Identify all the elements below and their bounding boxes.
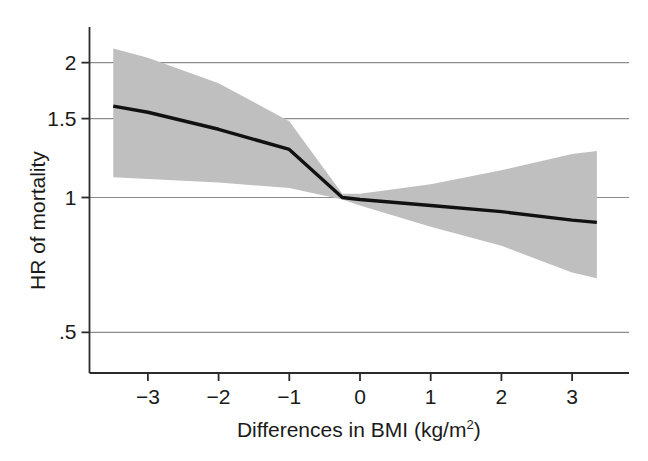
y-axis-title: HR of mortality	[26, 151, 50, 290]
y-tick-label-.5: .5	[59, 321, 77, 342]
x-tick-label-2: 2	[471, 386, 531, 407]
x-tick-label-0: 0	[330, 386, 390, 407]
ci-band-polygon	[113, 49, 597, 279]
x-tick-label-3: 3	[542, 386, 602, 407]
x-axis-title: Differences in BMI (kg/m2)	[89, 418, 629, 442]
x-tick-label--1: −1	[259, 386, 319, 407]
x-axis-title-main: Differences in BMI (kg/m	[237, 418, 467, 441]
x-axis-title-tail: )	[474, 418, 481, 441]
x-tick-label--3: −3	[118, 386, 178, 407]
confidence-band	[113, 49, 597, 279]
x-tick-label--2: −2	[189, 386, 249, 407]
x-tick-label-1: 1	[401, 386, 461, 407]
x-axis-title-superscript: 2	[466, 417, 473, 432]
y-tick-label-1: 1	[65, 187, 77, 208]
y-tick-label-2: 2	[65, 52, 77, 73]
chart-figure: 21.51.5 −3−2−10123 HR of mortality Diffe…	[0, 0, 648, 461]
y-tick-label-1.5: 1.5	[47, 108, 76, 129]
